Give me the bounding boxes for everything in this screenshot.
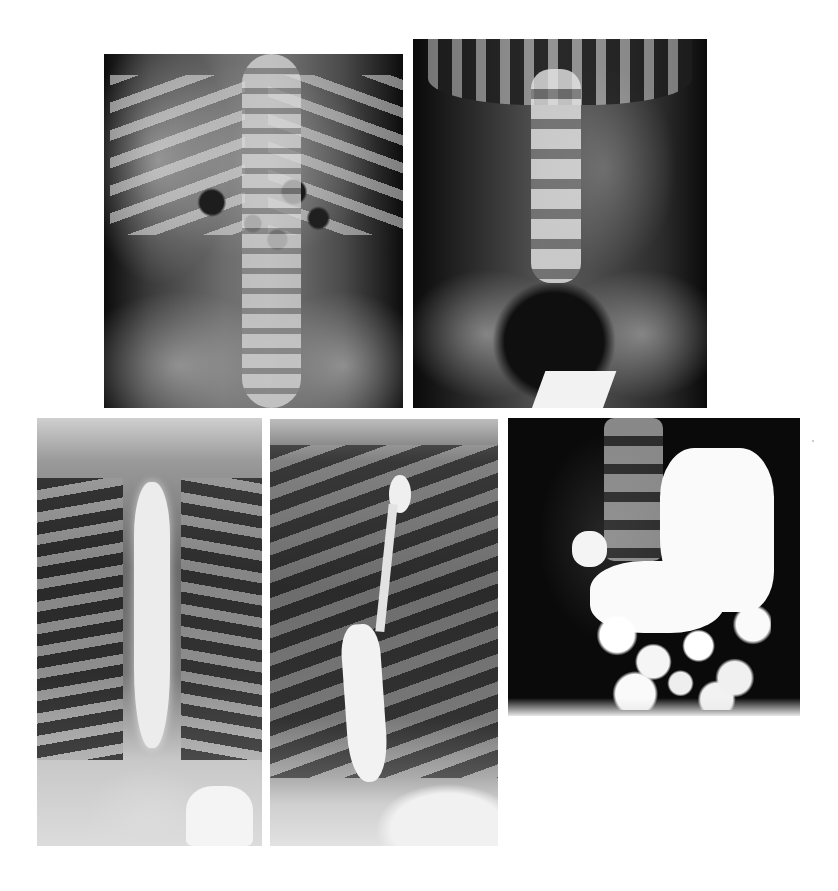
- speck: [812, 440, 814, 442]
- duodenal-bulb: [572, 531, 607, 567]
- barium-esophagram-ap-panel: [37, 418, 262, 846]
- contrast-small-bowel: [590, 603, 771, 710]
- upper-gi-stomach-panel: [508, 418, 800, 716]
- right-lung-field: [37, 478, 123, 760]
- barium-esophagram-oblique-panel: [270, 419, 498, 846]
- abdominal-xray-supine-panel: [104, 54, 403, 408]
- gastric-fundus-barium: [186, 786, 254, 846]
- abdominal-pelvic-xray-panel: [413, 39, 707, 408]
- lumbar-spine: [531, 69, 581, 283]
- panel-bottom-fade: [508, 698, 800, 716]
- left-lung-field: [181, 478, 262, 760]
- lumbar-spine: [242, 54, 302, 408]
- gonadal-shield: [527, 371, 616, 408]
- barium-filled-esophagus: [134, 482, 170, 747]
- spine: [604, 418, 662, 561]
